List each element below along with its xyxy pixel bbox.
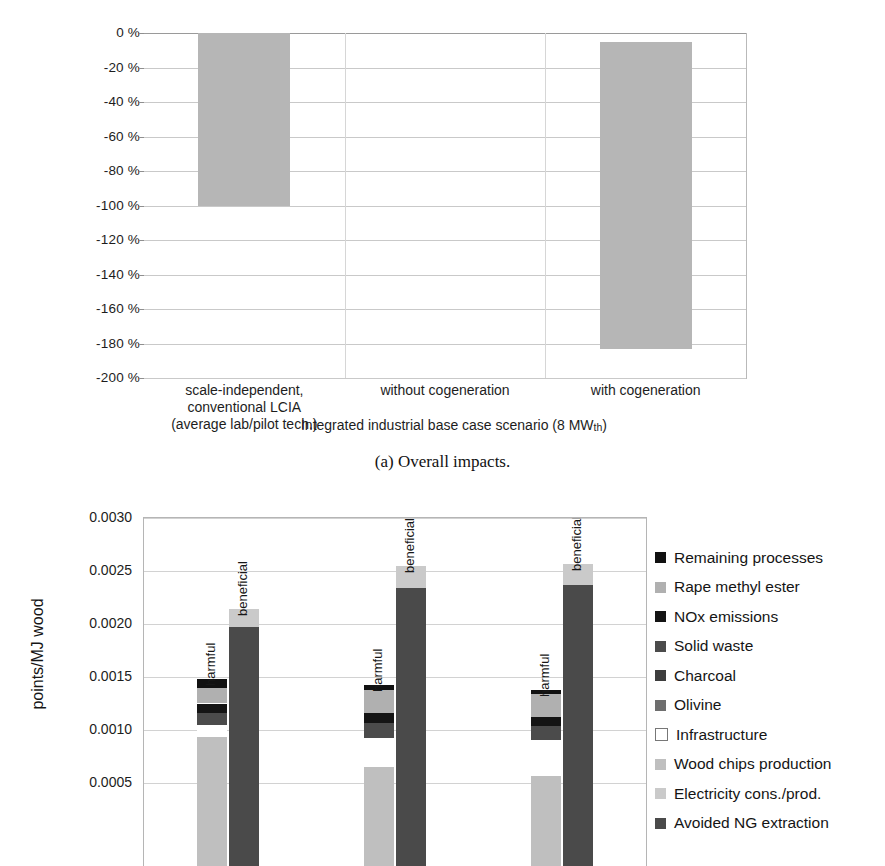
chart-b-stacked-bar — [396, 566, 426, 866]
chart-b-legend-label: Rape methyl ester — [674, 578, 800, 596]
chart-b-bar-segment — [229, 627, 259, 836]
chart-b-tick-mark — [143, 730, 144, 731]
chart-a-y-tick-label: -100 % — [60, 199, 140, 212]
chart-b-tick-mark — [143, 677, 144, 678]
chart-b-legend-label: Infrastructure — [676, 726, 767, 744]
chart-a-gridline — [144, 378, 746, 379]
figure-a-caption: (a) Overall impacts. — [0, 452, 885, 472]
chart-b-stacked-bar — [531, 690, 561, 866]
chart-b-bar-segment — [364, 738, 394, 767]
chart-b-bar-segment — [531, 717, 561, 725]
chart-a-y-tick-label: 0 % — [60, 26, 140, 39]
chart-a-tick-mark — [139, 344, 144, 345]
chart-a-category-divider — [345, 33, 346, 378]
chart-b-legend-swatch — [655, 552, 666, 563]
chart-b-bar-segment — [197, 725, 227, 738]
chart-a-category-label-line: with cogeneration — [521, 382, 770, 399]
chart-b-y-tick-label: 0.0015 — [42, 669, 132, 683]
chart-b-legend-swatch — [655, 818, 666, 829]
chart-b-legend-item: Wood chips production — [655, 750, 885, 780]
chart-b-y-axis-labels: 0.00300.00250.00200.00150.00100.0005 — [42, 517, 132, 847]
chart-b-bar-segment — [364, 690, 394, 713]
chart-a-y-tick-label: -160 % — [60, 302, 140, 315]
chart-b-legend-swatch — [655, 700, 666, 711]
chart-b-y-tick-label: 0.0020 — [42, 616, 132, 630]
chart-b-legend-item: Olivine — [655, 691, 885, 721]
chart-b-legend-swatch — [655, 670, 666, 681]
chart-a-category-divider — [545, 33, 546, 378]
chart-a-tick-mark — [139, 137, 144, 138]
chart-a-y-tick-label: -140 % — [60, 268, 140, 281]
chart-b-bar-segment — [197, 737, 227, 836]
chart-a-y-tick-label: -80 % — [60, 164, 140, 177]
chart-b-bar-segment — [364, 836, 394, 866]
chart-a-x-axis-title-close: ) — [602, 417, 607, 433]
chart-b-legend-item: Rape methyl ester — [655, 573, 885, 603]
chart-b-legend-swatch — [655, 759, 666, 770]
chart-a-tick-mark — [139, 206, 144, 207]
chart-b-legend-label: Charcoal — [674, 667, 736, 685]
chart-b-legend-item: NOx emissions — [655, 602, 885, 632]
chart-b-legend-swatch — [655, 641, 666, 652]
chart-b-bar-segment — [563, 585, 593, 836]
chart-b-bar-segment — [531, 776, 561, 836]
chart-b-bar-segment — [531, 726, 561, 740]
chart-b-tick-mark — [143, 783, 144, 784]
chart-a-tick-mark — [139, 171, 144, 172]
chart-b-legend-item: Avoided NG extraction — [655, 809, 885, 839]
chart-b-tick-mark — [143, 518, 144, 519]
chart-b-bar-label-beneficial: beneficial — [402, 518, 417, 573]
chart-a-y-tick-label: -120 % — [60, 233, 140, 246]
chart-b-bar-segment — [531, 836, 561, 866]
chart-b-legend-label: Olivine — [674, 696, 721, 714]
chart-b-legend-label: Wood chips production — [674, 755, 831, 773]
chart-a-bar — [198, 33, 290, 206]
chart-b-legend-swatch — [655, 728, 668, 741]
chart-b-bar-segment — [531, 740, 561, 776]
chart-b-legend-label: Electricity cons./prod. — [674, 785, 821, 803]
chart-b-bar-segment — [197, 713, 227, 725]
chart-b-bar-segment — [364, 713, 394, 723]
chart-b-bar-segment — [197, 704, 227, 714]
chart-b-legend-item: Charcoal — [655, 661, 885, 691]
chart-a-y-tick-label: -40 % — [60, 95, 140, 108]
chart-a-tick-mark — [139, 68, 144, 69]
chart-a-tick-mark — [139, 309, 144, 310]
chart-b-bar-segment — [364, 767, 394, 836]
chart-b-bar-label-beneficial: beneficial — [235, 561, 250, 616]
chart-a-bar — [600, 42, 692, 349]
chart-b-legend-swatch — [655, 582, 666, 593]
chart-b-stacked-bar — [197, 679, 227, 866]
chart-b-legend-label: Avoided NG extraction — [674, 814, 829, 832]
chart-b-bar-label-harmful: harmful — [370, 649, 385, 692]
chart-b-y-tick-label: 0.0005 — [42, 775, 132, 789]
chart-b-bar-segment — [531, 694, 561, 717]
chart-b-legend-swatch — [655, 788, 666, 799]
figure-b-detailed-impacts: points/MJ wood 0.00300.00250.00200.00150… — [0, 495, 885, 865]
chart-b-legend-label: Remaining processes — [674, 549, 823, 567]
chart-b-legend: Remaining processesRape methyl esterNOx … — [655, 543, 885, 838]
chart-a-y-tick-label: -20 % — [60, 61, 140, 74]
chart-b-legend-item: Solid waste — [655, 632, 885, 662]
chart-a-y-tick-label: -60 % — [60, 130, 140, 143]
chart-a-x-axis-title: Integrated industrial base case scenario… — [144, 417, 764, 436]
chart-b-legend-swatch — [655, 611, 666, 622]
chart-b-bar-label-beneficial: beneficial — [569, 517, 584, 571]
chart-b-y-tick-label: 0.0025 — [42, 563, 132, 577]
chart-a-y-axis-labels: 0 %-20 %-40 %-60 %-80 %-100 %-120 %-140 … — [60, 25, 140, 385]
chart-b-bar-segment — [563, 836, 593, 866]
chart-a-plot-area — [144, 33, 747, 379]
chart-b-stacked-bar — [563, 564, 593, 866]
chart-b-bar-segment — [396, 836, 426, 866]
chart-a-tick-mark — [139, 275, 144, 276]
chart-a-category-label: with cogeneration — [521, 382, 770, 399]
chart-b-stacked-bar — [364, 685, 394, 866]
chart-b-legend-item: Electricity cons./prod. — [655, 779, 885, 809]
chart-b-bar-segment — [197, 688, 227, 704]
chart-a-tick-mark — [139, 33, 144, 34]
chart-b-tick-mark — [143, 624, 144, 625]
chart-b-bar-segment — [364, 723, 394, 739]
chart-b-legend-item: Infrastructure — [655, 720, 885, 750]
chart-b-bar-segment — [197, 836, 227, 866]
chart-b-bar-segment — [229, 836, 259, 866]
